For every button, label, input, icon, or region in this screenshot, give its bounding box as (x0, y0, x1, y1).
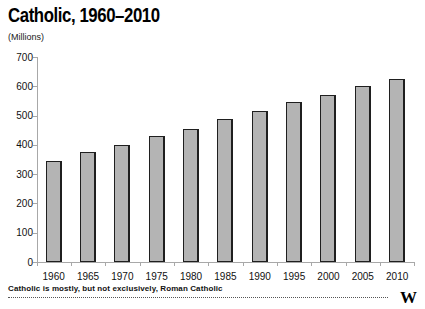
bar (149, 136, 165, 262)
x-tick (174, 262, 175, 266)
bar (114, 145, 130, 262)
chart-panel: Catholic, 1960–2010 (Millions) 010020030… (0, 0, 425, 309)
bar (46, 161, 62, 262)
x-tick-label: 2005 (346, 271, 380, 282)
bar (355, 86, 371, 262)
y-tick (33, 57, 37, 58)
bar (217, 119, 233, 263)
dotted-rule (8, 297, 388, 298)
x-tick (140, 262, 141, 266)
y-tick (33, 116, 37, 117)
x-tick (71, 262, 72, 266)
y-tick-label: 500 (0, 110, 33, 121)
x-tick (346, 262, 347, 266)
x-tick (37, 262, 38, 266)
x-tick-label: 1970 (105, 271, 139, 282)
bar (389, 79, 405, 262)
x-tick-label: 1980 (174, 271, 208, 282)
bar (80, 152, 96, 262)
bar (320, 95, 336, 262)
x-tick (243, 262, 244, 266)
x-tick-label: 1965 (71, 271, 105, 282)
y-tick-label: 100 (0, 227, 33, 238)
x-tick-label: 1975 (140, 271, 174, 282)
x-tick-label: 1985 (208, 271, 242, 282)
y-tick-label: 300 (0, 169, 33, 180)
y-tick-label: 0 (0, 257, 33, 268)
y-axis-line (37, 57, 38, 262)
y-tick-label: 200 (0, 198, 33, 209)
footnote: Catholic is mostly, but not exclusively,… (8, 284, 223, 293)
x-tick (414, 262, 415, 266)
y-tick (33, 233, 37, 234)
y-tick-label: 400 (0, 139, 33, 150)
y-tick (33, 203, 37, 204)
y-tick (33, 174, 37, 175)
x-tick-label: 1960 (37, 271, 71, 282)
w-logo: W (400, 289, 417, 306)
plot-area: 0100200300400500600700196019651970197519… (0, 0, 425, 309)
bar (183, 129, 199, 262)
y-tick-label: 600 (0, 81, 33, 92)
x-tick (105, 262, 106, 266)
x-tick (380, 262, 381, 266)
x-tick (277, 262, 278, 266)
bar (252, 111, 268, 262)
y-tick (33, 145, 37, 146)
x-tick-label: 1995 (277, 271, 311, 282)
y-tick (33, 86, 37, 87)
x-tick-label: 2000 (311, 271, 345, 282)
x-tick-label: 2010 (380, 271, 414, 282)
x-axis-line (37, 262, 416, 263)
x-tick (208, 262, 209, 266)
x-tick (311, 262, 312, 266)
bar (286, 102, 302, 262)
y-tick-label: 700 (0, 52, 33, 63)
x-tick-label: 1990 (243, 271, 277, 282)
